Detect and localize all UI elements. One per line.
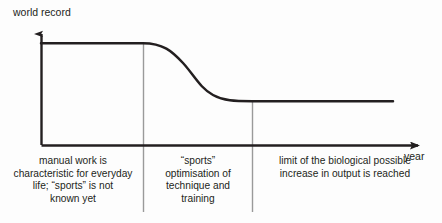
caption-phase-1-line-2: characteristic for everyday [8, 168, 138, 181]
caption-phase-1-line-4: known yet [8, 193, 138, 206]
caption-phase-1-line-3: life; “sports” is not [8, 180, 138, 193]
caption-phase-2-line-4: training [149, 193, 247, 206]
y-axis-label: world record [13, 6, 71, 18]
world-record-curve [41, 43, 393, 101]
caption-phase-3-line-2: increase in output is reached [256, 168, 434, 181]
caption-phase-2-line-2: optimisation of [149, 168, 247, 181]
caption-phase-2: “sports” optimisation of technique and t… [149, 155, 247, 205]
caption-phase-1-line-1: manual work is [8, 155, 138, 168]
caption-phase-2-line-3: technique and [149, 180, 247, 193]
caption-phase-1: manual work is characteristic for everyd… [8, 155, 138, 205]
caption-phase-2-line-1: “sports” [149, 155, 247, 168]
caption-phase-3-line-1: limit of the biological possible [256, 155, 434, 168]
figure-container: world record year manual work is charact… [0, 0, 442, 223]
caption-phase-3: limit of the biological possible increas… [256, 155, 434, 180]
